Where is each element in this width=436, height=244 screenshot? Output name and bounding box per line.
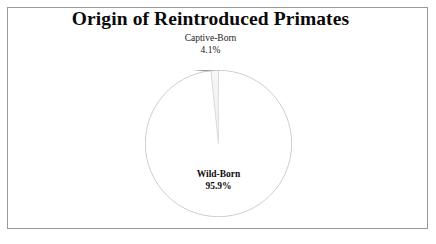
pie-chart-figure: Origin of Reintroduced Primates Captive-… <box>0 0 436 244</box>
slice-label-captive-born: Captive-Born 4.1% <box>0 33 421 56</box>
pie-graphic <box>145 70 292 217</box>
slice-label-captive-born-value: 4.1% <box>0 45 421 57</box>
pie-svg <box>145 70 292 217</box>
chart-title: Origin of Reintroduced Primates <box>0 8 421 30</box>
slice-label-captive-born-name: Captive-Born <box>0 33 421 45</box>
pie-highlight-overlay <box>145 70 291 216</box>
